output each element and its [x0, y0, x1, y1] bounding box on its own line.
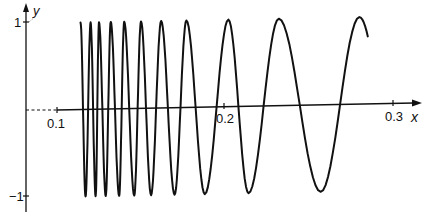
y-tick-label-neg1: −1 — [9, 190, 24, 203]
x-axis-label: x — [411, 110, 418, 124]
y-tick-label-1: 1 — [14, 16, 21, 29]
y-axis-arrow-icon — [23, 3, 29, 12]
x-tick-label-03: 0.3 — [385, 110, 403, 123]
x-tick-label-02: 0.2 — [216, 112, 234, 125]
x-tick-label-01: 0.1 — [47, 117, 65, 130]
x-axis — [57, 103, 414, 110]
y-axis-label: y — [33, 4, 40, 17]
x-axis-arrow-icon — [412, 100, 422, 107]
chart-canvas — [0, 0, 426, 220]
